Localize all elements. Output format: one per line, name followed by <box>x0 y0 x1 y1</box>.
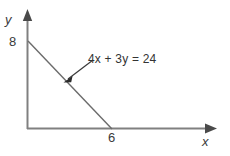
x-axis-arrowhead-icon <box>205 124 217 134</box>
tick-label-y-intercept: 8 <box>9 35 16 48</box>
axis-label-x: x <box>202 135 209 148</box>
y-axis-arrowhead-icon <box>23 9 32 21</box>
equation-annotation-label: 4x + 3y = 24 <box>88 53 156 65</box>
tick-label-x-intercept: 6 <box>108 131 115 144</box>
line-graph-figure: y x 8 6 4x + 3y = 24 <box>0 0 230 156</box>
axis-label-y: y <box>5 13 12 26</box>
